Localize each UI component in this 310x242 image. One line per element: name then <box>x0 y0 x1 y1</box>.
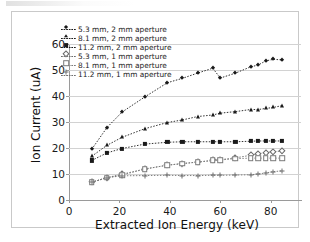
data-point-marker <box>195 173 200 178</box>
data-point-marker <box>105 143 109 147</box>
data-point-marker <box>233 109 237 113</box>
legend-item-label: 5.3 mm, 2 mm aperture <box>76 25 167 34</box>
x-tick-mark <box>170 200 171 203</box>
y-tick-mark <box>66 200 69 201</box>
legend-item-2[interactable]: 11.2 mm, 2 mm aperture <box>61 43 172 52</box>
data-point-marker <box>256 139 260 143</box>
x-axis-title: Extracted Ion Energy (keV) <box>52 218 302 232</box>
legend-key-icon <box>61 71 76 80</box>
data-point-marker <box>105 151 109 155</box>
data-point-marker <box>256 107 260 111</box>
data-point-marker <box>63 60 69 66</box>
x-axis-line <box>69 200 302 201</box>
data-point-marker <box>143 126 147 130</box>
data-point-marker <box>165 162 171 168</box>
data-point-marker <box>233 173 238 178</box>
legend-key-icon <box>61 25 76 34</box>
data-point-marker <box>218 111 222 115</box>
series-line-2 <box>92 141 282 161</box>
data-point-marker <box>180 173 185 178</box>
data-point-marker <box>211 113 215 117</box>
data-point-marker <box>180 118 184 122</box>
x-tick-mark <box>69 200 70 203</box>
data-point-marker <box>249 107 253 111</box>
legend-item-0[interactable]: 5.3 mm, 2 mm aperture <box>61 25 172 34</box>
data-point-marker <box>256 172 261 177</box>
data-point-marker <box>180 140 184 144</box>
legend-item-label: 11.2 mm, 1 mm aperture <box>76 70 172 79</box>
data-point-marker <box>104 175 109 180</box>
x-tick-label: 80 <box>256 205 286 217</box>
legend-item-label: 5.3 mm, 1 mm aperture <box>76 52 167 61</box>
data-point-marker <box>143 142 147 146</box>
y-tick-label: 0 <box>31 195 65 205</box>
data-point-marker <box>142 166 148 172</box>
y-axis-title: Ion Current (uA) <box>29 45 43 185</box>
legend-item-label: 8.1 mm, 1 mm aperture <box>76 61 167 70</box>
data-point-marker <box>218 157 224 163</box>
x-tick-label: 20 <box>104 205 134 217</box>
legend-key-icon <box>61 43 76 52</box>
scan-artifact <box>6 1 136 6</box>
data-point-marker <box>120 146 124 150</box>
data-point-marker <box>263 155 269 161</box>
data-point-marker <box>196 140 200 144</box>
x-tick-mark <box>220 200 221 203</box>
data-point-marker <box>195 159 201 165</box>
data-point-marker <box>196 114 200 118</box>
data-point-marker <box>233 140 237 144</box>
data-point-marker <box>271 139 275 143</box>
data-point-marker <box>210 158 216 164</box>
data-point-marker <box>279 155 285 161</box>
data-point-marker <box>280 103 284 107</box>
data-point-marker <box>210 173 215 178</box>
data-point-marker <box>142 173 147 178</box>
x-tick-label: 60 <box>205 205 235 217</box>
x-tick-mark <box>271 200 272 203</box>
legend-key-icon <box>61 34 76 43</box>
data-point-marker <box>264 106 268 110</box>
data-point-marker <box>248 139 252 143</box>
legend: 5.3 mm, 2 mm aperture8.1 mm, 2 mm apertu… <box>61 25 172 80</box>
data-point-marker <box>218 173 223 178</box>
data-point-marker <box>64 70 69 75</box>
data-point-marker <box>248 155 254 161</box>
x-tick-label: 40 <box>155 205 185 217</box>
data-point-marker <box>211 140 215 144</box>
data-point-marker <box>180 161 186 167</box>
data-point-marker <box>120 135 124 139</box>
data-point-marker <box>64 25 68 29</box>
legend-item-1[interactable]: 8.1 mm, 2 mm aperture <box>61 34 172 43</box>
data-point-marker <box>233 156 239 162</box>
data-point-marker <box>64 43 68 47</box>
legend-item-label: 8.1 mm, 2 mm aperture <box>76 34 167 43</box>
legend-item-4[interactable]: 8.1 mm, 1 mm aperture <box>61 61 172 70</box>
data-point-marker <box>165 173 170 178</box>
data-point-marker <box>119 173 124 178</box>
data-point-marker <box>264 139 268 143</box>
data-point-marker <box>255 155 261 161</box>
x-tick-label: 0 <box>54 205 84 217</box>
data-point-marker <box>248 172 253 177</box>
chart-frame: 0102030405060 020406080 Ion Current (uA)… <box>11 11 299 228</box>
legend-item-5[interactable]: 11.2 mm, 1 mm aperture <box>61 70 172 79</box>
data-point-marker <box>280 168 285 173</box>
data-point-marker <box>165 140 169 144</box>
data-point-marker <box>271 105 275 109</box>
legend-item-label: 11.2 mm, 2 mm aperture <box>76 43 172 52</box>
legend-item-3[interactable]: 5.3 mm, 1 mm aperture <box>61 52 172 61</box>
figure-canvas: 0102030405060 020406080 Ion Current (uA)… <box>0 0 310 242</box>
x-tick-mark <box>119 200 120 203</box>
data-point-marker <box>90 158 94 162</box>
data-point-marker <box>271 169 276 174</box>
data-point-marker <box>280 139 284 143</box>
data-point-marker <box>263 170 268 175</box>
data-point-marker <box>64 34 68 37</box>
data-point-marker <box>165 120 169 124</box>
data-point-marker <box>89 180 94 185</box>
data-point-marker <box>270 155 276 161</box>
data-point-marker <box>90 154 94 158</box>
data-point-marker <box>218 140 222 144</box>
